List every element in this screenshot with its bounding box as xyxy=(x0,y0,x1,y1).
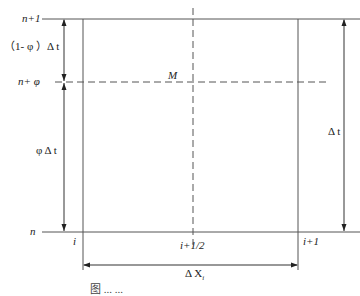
label-node-i-plus-1: i+1 xyxy=(303,236,319,247)
label-node-i-half: i+1/2 xyxy=(180,240,205,251)
figure-caption: 图 ... ... xyxy=(90,280,123,296)
arrowhead-icon xyxy=(62,74,67,81)
space-step-text: Δ X xyxy=(185,267,202,279)
label-total-time: Δ t xyxy=(328,126,340,137)
label-node-i: i xyxy=(73,236,76,247)
arrowhead-icon xyxy=(62,224,67,231)
arrowhead-icon xyxy=(62,19,67,26)
arrowhead-icon xyxy=(83,263,90,268)
arrowhead-icon xyxy=(62,83,67,90)
label-space-step: Δ Xi xyxy=(185,268,204,282)
label-n-plus-phi: n+ φ xyxy=(18,76,40,87)
label-lower-interval: φ Δ t xyxy=(36,145,57,156)
space-step-subscript: i xyxy=(202,274,204,282)
arrowhead-icon xyxy=(342,224,347,231)
arrowhead-icon xyxy=(342,19,347,26)
label-n-plus-1: n+1 xyxy=(22,13,40,24)
label-upper-interval: （1- φ ）Δ t xyxy=(4,41,59,52)
arrowhead-icon xyxy=(291,263,298,268)
label-n: n xyxy=(30,226,36,237)
label-center-point: M xyxy=(168,70,177,81)
